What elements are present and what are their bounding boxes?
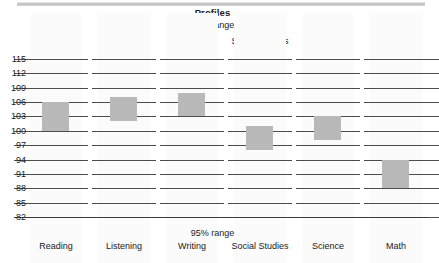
gridline [160, 203, 224, 204]
column-band [30, 13, 82, 263]
gridline-right-stub [427, 188, 439, 189]
gridline [92, 188, 156, 189]
column-band [98, 13, 150, 263]
range-bar-listening [110, 97, 137, 121]
column-band [166, 13, 218, 263]
gridline [296, 174, 360, 175]
y-axis-tick-label: 109 [0, 84, 26, 93]
gridline [364, 73, 428, 74]
gridline [160, 73, 224, 74]
gridline [92, 174, 156, 175]
gridline-right-stub [427, 88, 439, 89]
gridline-right-stub [427, 217, 439, 218]
gridline [160, 59, 224, 60]
plot-area [30, 59, 422, 217]
gridline [24, 160, 88, 161]
range-bar-math [382, 160, 409, 189]
y-axis-tick-label: 103 [0, 112, 26, 121]
y-axis-tick-label: 91 [0, 170, 26, 179]
range-label-bottom: 95% range [0, 228, 425, 238]
gridline [92, 73, 156, 74]
gridline [228, 203, 292, 204]
gridline [296, 203, 360, 204]
gridline [24, 174, 88, 175]
gridline [160, 160, 224, 161]
gridline-right-stub [427, 203, 439, 204]
gridline-right-stub [427, 116, 439, 117]
gridline [228, 102, 292, 103]
axis-baseline [14, 217, 422, 218]
gridline [92, 88, 156, 89]
column-listening [98, 59, 150, 217]
gridline [24, 131, 88, 132]
y-axis-tick-label: 97 [0, 141, 26, 150]
y-axis-tick-label: 82 [0, 213, 26, 222]
gridline [92, 160, 156, 161]
window-top-border-cap [14, 2, 17, 6]
gridline [228, 188, 292, 189]
gridline [24, 73, 88, 74]
gridline-right-stub [427, 145, 439, 146]
gridline-right-stub [427, 102, 439, 103]
gridline [228, 88, 292, 89]
gridline-right-stub [427, 73, 439, 74]
gridline [364, 102, 428, 103]
gridline [296, 88, 360, 89]
gridline [160, 188, 224, 189]
y-axis-tick-label: 100 [0, 127, 26, 136]
y-axis-tick-label: 88 [0, 184, 26, 193]
y-axis-tick-label: 106 [0, 98, 26, 107]
column-math [370, 59, 422, 217]
gridline [24, 59, 88, 60]
window-top-border [14, 2, 425, 6]
gridline [160, 145, 224, 146]
y-axis-tick-label: 112 [0, 69, 26, 78]
gridline [24, 88, 88, 89]
gridline [364, 116, 428, 117]
gridline [24, 145, 88, 146]
gridline [160, 131, 224, 132]
gridline [296, 145, 360, 146]
gridline [296, 102, 360, 103]
gridline [92, 145, 156, 146]
column-band [370, 13, 422, 263]
range-bar-science [314, 116, 341, 140]
gridline [92, 131, 156, 132]
gridline [24, 188, 88, 189]
column-reading [30, 59, 82, 217]
gridline [364, 203, 428, 204]
gridline [228, 160, 292, 161]
gridline [24, 203, 88, 204]
gridline [228, 116, 292, 117]
gridline [296, 73, 360, 74]
gridline-right-stub [427, 160, 439, 161]
gridline [364, 145, 428, 146]
column-header-bottom-math: Math [356, 241, 436, 253]
gridline [160, 88, 224, 89]
gridline [364, 88, 428, 89]
gridline [296, 59, 360, 60]
column-writing [166, 59, 218, 217]
gridline [296, 160, 360, 161]
gridline [92, 59, 156, 60]
gridline-right-stub [427, 59, 439, 60]
gridline-right-stub [427, 174, 439, 175]
gridline [228, 174, 292, 175]
range-bar-reading [42, 102, 69, 131]
range-bar-writing [178, 93, 205, 117]
gridline [364, 131, 428, 132]
y-axis-tick-label: 115 [0, 55, 26, 64]
y-axis-tick-label: 85 [0, 199, 26, 208]
gridline [228, 73, 292, 74]
gridline [160, 174, 224, 175]
range-bar-social-studies [246, 126, 273, 150]
y-axis-tick-label: 94 [0, 156, 26, 165]
gridline [296, 188, 360, 189]
gridline [364, 59, 428, 60]
gridline [228, 59, 292, 60]
gridline [92, 203, 156, 204]
gridline-right-stub [427, 131, 439, 132]
